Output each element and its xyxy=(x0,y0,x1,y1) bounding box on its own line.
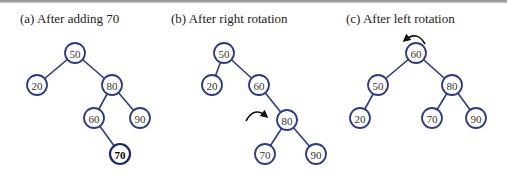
node-a-90: 90 xyxy=(130,108,150,128)
node-a-70: 70 xyxy=(110,144,130,164)
node-label: 50 xyxy=(219,48,231,60)
node-label: 80 xyxy=(107,80,119,92)
node-b-60: 60 xyxy=(249,75,269,95)
node-label: 60 xyxy=(411,48,423,60)
node-label: 60 xyxy=(254,80,266,92)
node-label: 20 xyxy=(207,80,219,92)
node-b-50: 50 xyxy=(214,43,234,63)
node-c-90: 90 xyxy=(466,108,486,128)
node-b-90: 90 xyxy=(306,144,326,164)
node-label: 50 xyxy=(373,80,385,92)
node-c-60: 60 xyxy=(406,43,426,63)
node-a-20: 20 xyxy=(27,75,47,95)
node-b-20: 20 xyxy=(202,75,222,95)
node-b-70: 70 xyxy=(255,144,275,164)
node-c-20: 20 xyxy=(350,108,370,128)
node-label: 90 xyxy=(311,149,323,161)
node-c-50: 50 xyxy=(368,75,388,95)
node-label: 70 xyxy=(115,149,127,161)
node-label: 60 xyxy=(89,113,101,125)
node-c-80: 80 xyxy=(442,75,462,95)
node-label: 80 xyxy=(447,80,459,92)
node-a-60: 60 xyxy=(84,108,104,128)
node-label: 50 xyxy=(70,48,82,60)
tree-edges xyxy=(37,53,476,154)
node-b-80: 80 xyxy=(277,110,297,130)
node-label: 90 xyxy=(471,113,483,125)
tree-nodes: 502080609070502060807090605080207090 xyxy=(27,43,486,164)
node-label: 80 xyxy=(282,115,294,127)
node-c-70: 70 xyxy=(422,108,442,128)
node-label: 70 xyxy=(427,113,439,125)
node-label: 70 xyxy=(260,149,272,161)
node-a-80: 80 xyxy=(102,75,122,95)
node-label: 20 xyxy=(32,80,44,92)
node-a-50: 50 xyxy=(65,43,85,63)
node-label: 20 xyxy=(355,113,367,125)
avl-rotation-diagram: 502080609070502060807090605080207090 xyxy=(0,0,507,174)
clockwise-rotation-arrow-icon xyxy=(246,112,266,121)
node-label: 90 xyxy=(135,113,147,125)
